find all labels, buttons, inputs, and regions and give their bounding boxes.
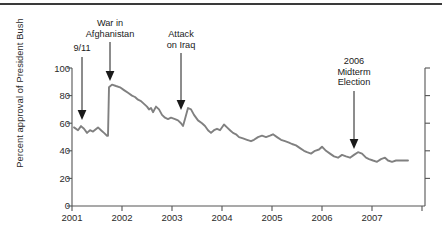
approval-data-line xyxy=(74,85,408,162)
annotation-label-attack-on-iraq: Attack on Iraq xyxy=(150,29,212,50)
annotation-arrows xyxy=(78,42,359,149)
arrow-2006-midterm-election xyxy=(350,91,359,149)
arrow-attack-on-iraq xyxy=(177,53,186,110)
annotation-label-2006-midterm-election: 2006 Midterm Election xyxy=(318,56,390,88)
figure-approval-chart: Percent approval of President Bush 100 8… xyxy=(0,0,442,249)
annotation-label-war-in-afghanistan: War in Afghanistan xyxy=(73,18,147,39)
x-axis-ticks xyxy=(72,206,422,211)
chart-plot-area: Percent approval of President Bush 100 8… xyxy=(0,0,442,249)
annotation-label-9-11: 9/11 xyxy=(63,43,101,54)
y-axis-ticks-left xyxy=(67,68,72,206)
arrow-war-in-afghanistan xyxy=(106,42,115,81)
arrow-9-11 xyxy=(78,57,87,120)
y-axis-ticks-right xyxy=(425,68,430,178)
chart-svg xyxy=(0,0,442,249)
